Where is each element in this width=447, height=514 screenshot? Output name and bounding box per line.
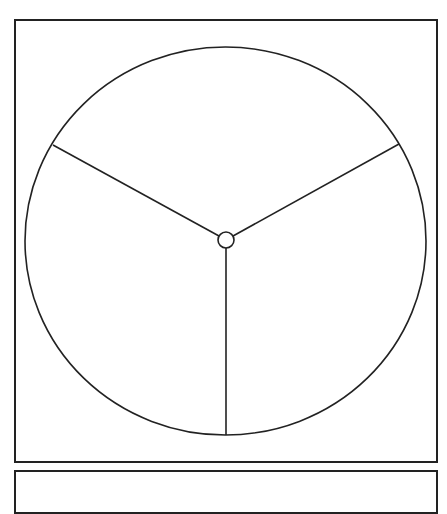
spoke-upper-right	[233, 144, 399, 236]
center-hub	[218, 232, 234, 248]
next-diagram-frame	[14, 470, 438, 514]
spoke-upper-left	[53, 145, 219, 236]
